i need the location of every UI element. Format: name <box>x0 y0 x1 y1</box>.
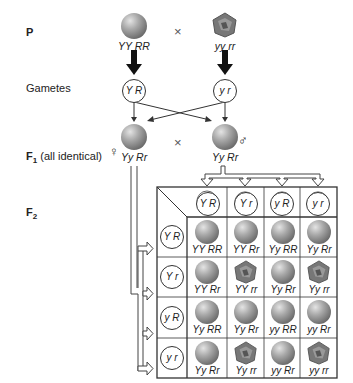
f1-right-pea <box>212 124 238 150</box>
round-pea-icon <box>271 300 295 324</box>
round-pea-icon <box>195 220 219 244</box>
round-pea-icon <box>307 220 331 244</box>
round-pea-icon <box>271 260 295 284</box>
punnett-cell-genotype: Yy rr <box>301 284 337 295</box>
punnett-cell-genotype: Yy Rr <box>189 365 225 376</box>
punnett-cell-genotype: Yy RR <box>265 244 301 255</box>
wrinkled-pea-icon <box>234 341 258 365</box>
punnett-cell-genotype: Yy rr <box>228 365 264 376</box>
round-pea-icon <box>234 220 258 244</box>
punnett-cell-genotype: yy RR <box>265 324 301 335</box>
row-gamete-4: y r <box>160 346 184 370</box>
col-gamete-3: y R <box>270 192 294 216</box>
row-gamete-3: y R <box>160 306 184 330</box>
cross-symbol-p: × <box>174 24 182 39</box>
round-pea-icon <box>195 341 219 365</box>
row-gamete-2: Y r <box>160 265 184 289</box>
f1-right-genotype: Yy Rr <box>201 151 249 163</box>
punnett-cell-genotype: YY rr <box>228 284 264 295</box>
punnett-cell-genotype: Yy RR <box>189 324 225 335</box>
punnett-cell-genotype: Yy Rr <box>228 324 264 335</box>
gamete-left: Y R <box>122 79 146 103</box>
parent-wrinkled-green-pea <box>212 12 238 38</box>
wrinkled-pea-icon <box>307 260 331 284</box>
punnett-cell-genotype: Yy Rr <box>265 284 301 295</box>
parent-round-yellow-pea <box>121 13 147 39</box>
f1-left-genotype: Yy Rr <box>110 151 158 163</box>
punnett-cell-genotype: yy Rr <box>265 365 301 376</box>
round-pea-icon <box>234 300 258 324</box>
punnett-cell-genotype: Yy Rr <box>301 244 337 255</box>
parent-right-genotype: yy rr <box>201 40 249 52</box>
f1-left-pea <box>121 124 147 150</box>
gamete-right: y r <box>213 79 237 103</box>
wrinkled-pea-icon <box>234 260 258 284</box>
male-symbol: ♂ <box>238 133 248 148</box>
round-pea-icon <box>195 260 219 284</box>
col-gamete-4: y r <box>306 192 330 216</box>
punnett-cell-genotype: yy Rr <box>301 324 337 335</box>
col-gamete-1: Y R <box>196 192 220 216</box>
round-pea-icon <box>271 341 295 365</box>
row-gamete-1: Y R <box>160 225 184 249</box>
round-pea-icon <box>271 220 295 244</box>
punnett-cell-genotype: YY RR <box>189 244 225 255</box>
punnett-cell-genotype: YY Rr <box>228 244 264 255</box>
cross-symbol-f1: × <box>174 135 182 150</box>
punnett-cell-genotype: YY Rr <box>189 284 225 295</box>
punnett-cell-genotype: yy rr <box>301 365 337 376</box>
round-pea-icon <box>195 300 219 324</box>
round-pea-icon <box>307 300 331 324</box>
wrinkled-pea-icon <box>307 341 331 365</box>
parent-left-genotype: YY RR <box>110 40 158 52</box>
col-gamete-2: Y r <box>234 192 258 216</box>
